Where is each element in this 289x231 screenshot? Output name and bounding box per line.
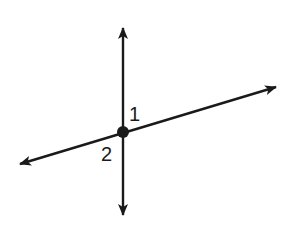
diagram-canvas: 1 2 [0, 0, 289, 231]
angle-label-2: 2 [101, 144, 112, 164]
intersecting-lines-figure [0, 0, 289, 231]
intersection-point [117, 126, 129, 138]
angle-label-1: 1 [129, 104, 140, 124]
slanted-line [20, 87, 276, 164]
